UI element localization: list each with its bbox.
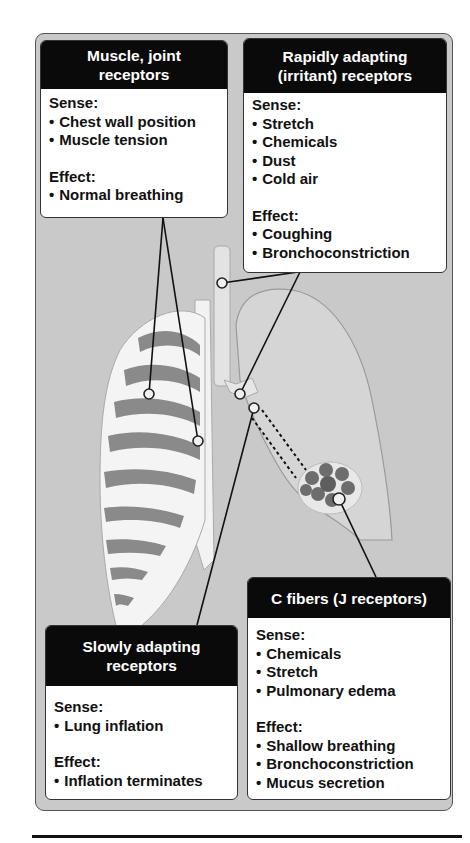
- alveoli-cluster: [298, 462, 362, 514]
- rapidly-adapting-receptors-box: Rapidly adapting (irritant) receptors Se…: [243, 38, 447, 273]
- sense-item: Dust: [252, 152, 438, 171]
- box-title-line: Slowly adapting: [83, 637, 201, 656]
- sense-item: Lung inflation: [54, 717, 229, 736]
- sense-item: Stretch: [252, 115, 438, 134]
- rib-cage: [100, 300, 214, 640]
- sense-item: Pulmonary edema: [256, 682, 442, 701]
- muscle-marker-2: [193, 436, 203, 446]
- effect-label: Effect:: [54, 753, 229, 772]
- sense-item: Stretch: [256, 663, 442, 682]
- sense-item: Chemicals: [256, 645, 442, 664]
- box-title-line: receptors: [106, 656, 177, 675]
- sense-item: Muscle tension: [49, 131, 219, 150]
- effect-item: Bronchoconstriction: [256, 755, 442, 774]
- box-header: Muscle, joint receptors: [41, 41, 227, 89]
- effect-label: Effect:: [49, 168, 219, 187]
- sense-label: Sense:: [54, 698, 229, 717]
- sense-label: Sense:: [49, 94, 219, 113]
- effect-item: Bronchoconstriction: [252, 244, 438, 263]
- muscle-marker-1: [144, 389, 154, 399]
- sense-item: Cold air: [252, 170, 438, 189]
- effect-label: Effect:: [252, 207, 438, 226]
- sense-item: Chest wall position: [49, 113, 219, 132]
- effect-item: Normal breathing: [49, 186, 219, 205]
- box-title-line: (irritant) receptors: [278, 66, 412, 85]
- box-title-line: receptors: [99, 65, 170, 84]
- box-header: Slowly adapting receptors: [46, 626, 237, 686]
- cfiber-marker: [333, 493, 345, 505]
- effect-item: Coughing: [252, 225, 438, 244]
- box-title-line: C fibers (J receptors): [271, 589, 427, 608]
- sense-label: Sense:: [252, 96, 438, 115]
- effect-label: Effect:: [256, 718, 442, 737]
- box-header: C fibers (J receptors): [248, 578, 450, 618]
- box-title-line: Muscle, joint: [87, 46, 181, 65]
- box-header: Rapidly adapting (irritant) receptors: [244, 39, 446, 93]
- bottom-rule: [32, 835, 462, 838]
- muscle-joint-receptors-box: Muscle, joint receptors Sense: Chest wal…: [40, 40, 228, 218]
- box-title-line: Rapidly adapting: [283, 47, 408, 66]
- effect-item: Inflation terminates: [54, 772, 229, 791]
- effect-item: Mucus secretion: [256, 774, 442, 793]
- sense-item: Chemicals: [252, 133, 438, 152]
- rapid-marker-bronchus: [235, 389, 245, 399]
- rapid-marker-trachea: [217, 278, 227, 288]
- c-fibers-box: C fibers (J receptors) Sense: Chemicals …: [247, 577, 451, 800]
- slow-marker: [249, 403, 259, 413]
- sense-label: Sense:: [256, 626, 442, 645]
- effect-item: Shallow breathing: [256, 737, 442, 756]
- slowly-adapting-receptors-box: Slowly adapting receptors Sense: Lung in…: [45, 625, 238, 800]
